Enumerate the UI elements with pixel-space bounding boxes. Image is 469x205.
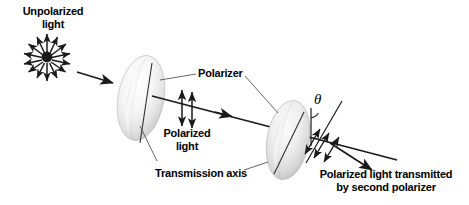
transmitted-light-line1: Polarized light transmitted (312, 168, 460, 181)
second-polarizer-disc (260, 97, 315, 183)
unpolarized-light-burst (24, 34, 70, 81)
unpolarized-light-line1: Unpolarized (12, 5, 94, 18)
unpolarized-light-label: Unpolarized light (12, 5, 94, 30)
theta-symbol-label: θ (314, 91, 321, 108)
transmission-axis-label: Transmission axis (155, 167, 247, 180)
polarized-light-label: Polarized light (152, 127, 222, 152)
polarized-light-line1: Polarized (152, 127, 222, 140)
theta-angle-marker (306, 101, 342, 163)
unpolarized-light-line2: light (12, 18, 94, 31)
polarized-light-arrows (182, 90, 192, 128)
transmitted-light-caption: Polarized light transmitted by second po… (312, 168, 460, 193)
polarization-diagram: Unpolarized light Polarizer Polarized li… (0, 0, 469, 205)
incident-beam-arrow (77, 72, 113, 83)
polarizer-label: Polarizer (198, 67, 243, 80)
polarized-light-line2: light (152, 140, 222, 153)
transmitted-light-line2: by second polarizer (312, 181, 460, 194)
